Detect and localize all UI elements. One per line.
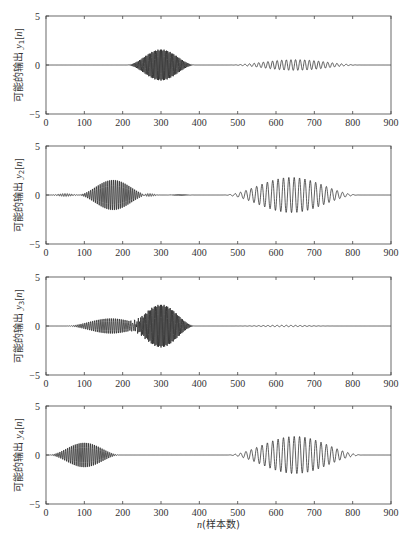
y-tick-label: −5	[29, 370, 40, 381]
subplot-2: 0100200300400500600700800900−505可能的输出 y2…	[12, 141, 399, 259]
x-tick-label: 200	[115, 378, 130, 389]
y-tick-label: −5	[29, 239, 40, 250]
x-tick-label: 800	[345, 378, 360, 389]
x-tick-label: 100	[77, 117, 92, 128]
x-tick-label: 400	[192, 507, 207, 518]
y-tick-label: 5	[35, 141, 40, 152]
subplot-1: 0100200300400500600700800900−505可能的输出 y1…	[12, 11, 399, 129]
x-tick-label: 400	[192, 117, 207, 128]
x-tick-label: 0	[44, 378, 49, 389]
x-tick-label: 800	[345, 507, 360, 518]
x-tick-label: 400	[192, 378, 207, 389]
y-axis-label: 可能的输出 y2[n]	[12, 158, 26, 232]
x-tick-label: 0	[44, 117, 49, 128]
x-tick-label: 500	[230, 378, 245, 389]
signal-line	[46, 177, 391, 212]
y-tick-label: 5	[35, 401, 40, 412]
x-tick-label: 700	[307, 117, 322, 128]
x-tick-label: 800	[345, 247, 360, 258]
x-tick-label: 400	[192, 247, 207, 258]
x-tick-label: 800	[345, 117, 360, 128]
x-tick-label: 700	[307, 378, 322, 389]
y-axis-label: 可能的输出 y1[n]	[12, 28, 26, 102]
x-tick-label: 500	[230, 507, 245, 518]
subplot-4: 0100200300400500600700800900−505可能的输出 y4…	[12, 401, 399, 519]
signal-line	[46, 436, 391, 473]
x-tick-label: 900	[384, 247, 399, 258]
x-tick-label: 600	[269, 117, 284, 128]
x-tick-label: 200	[115, 247, 130, 258]
x-tick-label: 300	[154, 117, 169, 128]
figure: 0100200300400500600700800900−505可能的输出 y1…	[0, 0, 413, 542]
signal-line	[46, 305, 391, 348]
y-tick-label: 0	[35, 450, 40, 461]
x-tick-label: 300	[154, 378, 169, 389]
x-tick-label: 0	[44, 247, 49, 258]
x-tick-label: 500	[230, 117, 245, 128]
x-tick-label: 100	[77, 378, 92, 389]
y-tick-label: 5	[35, 272, 40, 283]
x-tick-label: 700	[307, 247, 322, 258]
x-tick-label: 900	[384, 117, 399, 128]
y-tick-label: 0	[35, 190, 40, 201]
x-axis-label: n(样本数)	[197, 518, 240, 530]
y-axis-label: 可能的输出 y4[n]	[12, 418, 26, 492]
x-tick-label: 100	[77, 507, 92, 518]
signal-line	[46, 50, 391, 81]
x-tick-label: 300	[154, 507, 169, 518]
y-tick-label: −5	[29, 109, 40, 120]
y-tick-label: 0	[35, 321, 40, 332]
x-tick-label: 600	[269, 378, 284, 389]
y-tick-label: −5	[29, 499, 40, 510]
x-tick-label: 500	[230, 247, 245, 258]
x-tick-label: 600	[269, 247, 284, 258]
x-tick-label: 300	[154, 247, 169, 258]
x-tick-label: 200	[115, 507, 130, 518]
x-tick-label: 0	[44, 507, 49, 518]
y-tick-label: 0	[35, 60, 40, 71]
x-tick-label: 600	[269, 507, 284, 518]
subplot-3: 0100200300400500600700800900−505可能的输出 y3…	[12, 272, 399, 390]
x-tick-label: 900	[384, 378, 399, 389]
y-tick-label: 5	[35, 11, 40, 22]
x-tick-label: 100	[77, 247, 92, 258]
y-axis-label: 可能的输出 y3[n]	[12, 289, 26, 363]
x-tick-label: 200	[115, 117, 130, 128]
x-tick-label: 700	[307, 507, 322, 518]
x-tick-label: 900	[384, 507, 399, 518]
